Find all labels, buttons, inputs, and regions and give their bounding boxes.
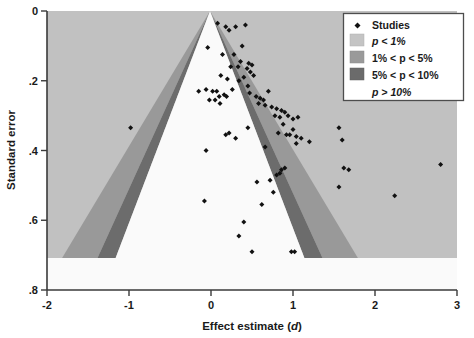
- legend-item-p-lt-1pct[interactable]: p < 1%: [350, 34, 406, 47]
- legend[interactable]: Studies p < 1% 1% < p < 5% 5% < p < 10% …: [344, 14, 464, 101]
- legend-item-p-gt-10pct[interactable]: p > 10%: [371, 86, 412, 98]
- legend-label-1pct-5pct: 1% < p < 5%: [372, 52, 433, 64]
- legend-label-5pct-10pct: 5% < p < 10%: [372, 69, 439, 81]
- y-tick-label-2: .4: [29, 145, 39, 157]
- x-tick-label-2: 0: [208, 299, 214, 311]
- y-tick-label-3: .6: [29, 214, 38, 226]
- legend-item-1pct-5pct[interactable]: 1% < p < 5%: [350, 51, 433, 64]
- funnel-plot-canvas: 0 .2 .4 .6 .8 -2 -1 0 1 2 3 Effect estim…: [0, 0, 474, 338]
- legend-label-p-gt-10pct: p > 10%: [371, 86, 412, 98]
- x-tick-label-4: 2: [372, 299, 378, 311]
- legend-label-studies: Studies: [372, 19, 410, 31]
- x-tick-label-3: 1: [290, 299, 296, 311]
- x-tick-label-0: -2: [42, 299, 52, 311]
- x-axis-title-close: ): [298, 320, 302, 332]
- y-tick-label-1: .2: [29, 75, 38, 87]
- legend-item-5pct-10pct[interactable]: 5% < p < 10%: [350, 68, 439, 81]
- y-tick-label-4: .8: [29, 284, 38, 296]
- y-axis-ticks: [41, 11, 47, 290]
- x-axis-title: Effect estimate (d): [202, 320, 302, 332]
- legend-swatch-p-lt-1pct: [350, 34, 364, 46]
- x-tick-label-5: 3: [454, 299, 460, 311]
- funnel-plot-figure: 0 .2 .4 .6 .8 -2 -1 0 1 2 3 Effect estim…: [0, 0, 474, 338]
- y-tick-label-0: 0: [32, 5, 38, 17]
- x-tick-label-1: -1: [124, 299, 134, 311]
- y-axis-title: Standard error: [5, 110, 17, 190]
- x-axis-title-main: Effect estimate (: [202, 320, 291, 332]
- x-axis-ticks: [47, 290, 457, 296]
- legend-swatch-1pct-5pct: [350, 51, 364, 63]
- legend-swatch-5pct-10pct: [350, 68, 364, 80]
- legend-label-p-lt-1pct: p < 1%: [371, 35, 406, 47]
